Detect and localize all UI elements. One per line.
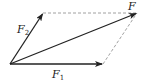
label-f: F: [127, 0, 136, 13]
vector-f2-arrow: [10, 14, 43, 64]
label-f1: F1: [51, 68, 64, 81]
force-parallelogram-diagram: F2 F1 F: [0, 0, 147, 81]
vector-f-resultant-arrow: [10, 14, 136, 65]
dashed-right-edge: [103, 13, 137, 64]
label-f2: F2: [16, 23, 29, 37]
